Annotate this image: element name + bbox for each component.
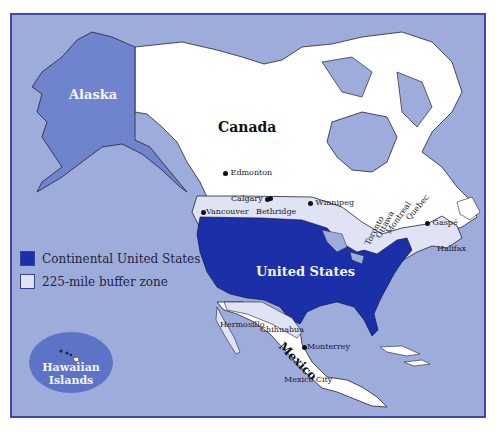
legend-swatch-buffer bbox=[20, 274, 35, 289]
legend-item-buffer-zone: 225-mile buffer zone bbox=[20, 274, 200, 289]
city-dot-icon bbox=[223, 171, 228, 176]
city-halifax: Halifax bbox=[437, 245, 466, 253]
city-dot-icon bbox=[425, 221, 430, 226]
city-vancouver: Vancouver bbox=[201, 208, 249, 216]
city-mexico-city: Mexico City bbox=[284, 376, 332, 384]
city-chihuahua: Chihuahua bbox=[260, 326, 304, 334]
hawaii-inset: Hawaiian Islands bbox=[29, 332, 113, 393]
map-legend: Continental United States 225-mile buffe… bbox=[20, 251, 200, 297]
canada-label: Canada bbox=[218, 120, 276, 134]
city-bethridge: Bethridge bbox=[256, 200, 296, 216]
legend-item-continental-us: Continental United States bbox=[20, 251, 200, 266]
legend-swatch-us bbox=[20, 251, 35, 266]
city-dot-icon bbox=[268, 196, 273, 201]
city-monterrey: Monterrey bbox=[302, 343, 350, 351]
united-states-label: United States bbox=[256, 265, 355, 278]
cuba bbox=[380, 346, 420, 356]
map-frame: Alaska Canada United States Mexico Edmon… bbox=[10, 13, 486, 418]
city-edmonton: Edmonton bbox=[223, 169, 272, 177]
city-dot-icon bbox=[308, 201, 313, 206]
city-gaspe: Gaspé bbox=[425, 219, 458, 227]
city-hermosillo: Hermosillo bbox=[220, 321, 265, 329]
hawaii-label-line2: Islands bbox=[29, 375, 113, 386]
alaska-label: Alaska bbox=[69, 88, 117, 101]
city-winnipeg: Winnipeg bbox=[308, 199, 354, 207]
hawaii-label-line1: Hawaiian bbox=[29, 362, 113, 373]
